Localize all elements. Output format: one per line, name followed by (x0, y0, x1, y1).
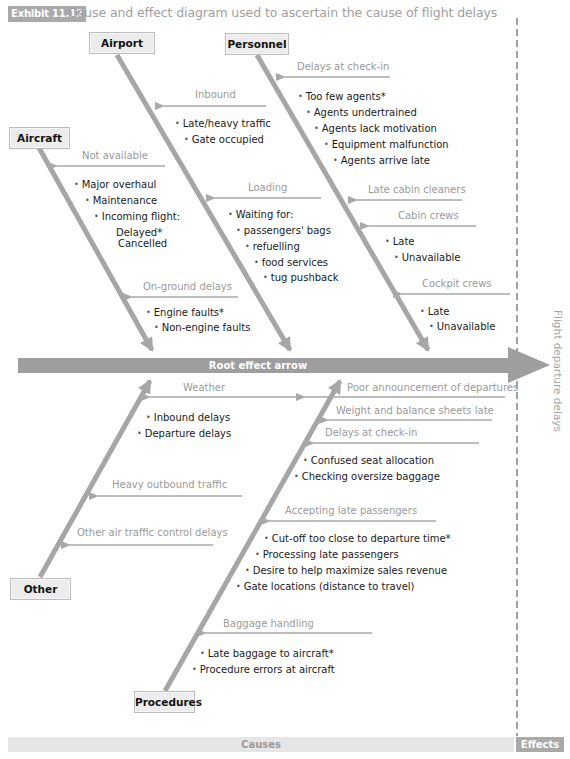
subcause-label: Baggage handling (223, 618, 314, 630)
cause-item: Confused seat allocation (303, 455, 434, 468)
effect-label: Flight departure delays (551, 310, 565, 450)
category-airport: Airport (89, 32, 155, 54)
cause-item: Procedure errors at aircraft (192, 664, 335, 677)
subcause-label: Other air traffic control delays (77, 527, 228, 539)
cause-item: food services (254, 257, 328, 270)
cause-item: Late (420, 306, 450, 319)
category-procedures: Procedures (134, 691, 195, 713)
subcause-label: Cabin crews (398, 210, 459, 222)
subcause-label: Not available (82, 150, 148, 162)
subcause-label: Loading (248, 182, 287, 194)
cause-item: Cut-off too close to departure time* (264, 533, 451, 546)
cause-item: Too few agents* (298, 91, 386, 104)
causes-footer: Causes (8, 737, 514, 752)
cause-item: Cancelled (118, 238, 167, 250)
cause-item: Agents undertrained (306, 107, 417, 120)
cause-item: Unavailable (429, 321, 496, 334)
cause-item: Gate locations (distance to travel) (236, 581, 415, 594)
subcause-label: Poor announcement of departures (347, 382, 518, 394)
cause-item: Maintenance (85, 195, 157, 208)
subcause-label: Late cabin cleaners (368, 184, 466, 196)
category-personnel: Personnel (225, 33, 289, 55)
category-other: Other (10, 578, 71, 600)
subcause-label: On-ground delays (143, 281, 232, 293)
cause-item: Inbound delays (146, 412, 230, 425)
cause-item: Major overhaul (74, 179, 156, 192)
subcause-label: Cockpit crews (422, 278, 492, 290)
effect-label-text: Flight departure delays (551, 310, 564, 432)
root-effect-label: Root effect arrow (18, 358, 498, 373)
subcause-label: Accepting late passengers (285, 505, 417, 517)
cause-item: Departure delays (137, 428, 231, 441)
cause-item: Late baggage to aircraft* (200, 648, 334, 661)
diagram-graphics (0, 0, 570, 759)
subcause-label: Delays at check-in (325, 427, 417, 439)
cause-item: Agents arrive late (333, 155, 430, 168)
cause-item: Checking oversize baggage (294, 471, 440, 484)
cause-item: refuelling (245, 241, 300, 254)
subcause-label: Weather (183, 382, 225, 394)
cause-item: Processing late passengers (255, 549, 399, 562)
cause-item: passengers' bags (236, 225, 331, 238)
subcause-label: Weight and balance sheets late (336, 405, 494, 417)
cause-item: Desire to help maximize sales revenue (245, 565, 447, 578)
fishbone-diagram: Exhibit 11.12 Cause and effect diagram u… (0, 0, 570, 759)
cause-item: Waiting for: (228, 209, 293, 222)
cause-item: tug pushback (263, 272, 339, 285)
cause-item: Late (385, 236, 415, 249)
cause-item: Gate occupied (184, 134, 264, 147)
cause-item: Engine faults* (146, 307, 224, 320)
category-aircraft: Aircraft (9, 127, 70, 149)
subcause-label: Delays at check-in (297, 61, 389, 73)
subcause-label: Heavy outbound traffic (112, 479, 227, 491)
cause-item: Equipment malfunction (324, 139, 449, 152)
subcause-label: Inbound (195, 89, 236, 101)
cause-item: Agents lack motivation (314, 123, 437, 136)
cause-item: Unavailable (394, 252, 461, 265)
effects-footer: Effects (516, 737, 564, 752)
cause-item: Incoming flight: (94, 211, 180, 224)
cause-item: Non-engine faults (154, 322, 250, 335)
cause-item: Late/heavy traffic (175, 118, 271, 131)
